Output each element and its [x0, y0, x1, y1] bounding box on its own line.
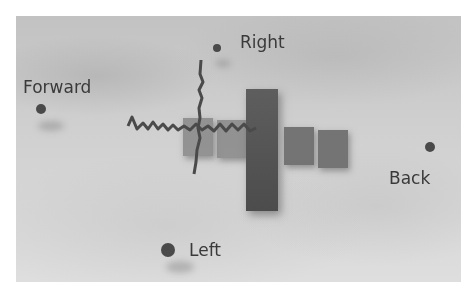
- trajectory-wires: [16, 16, 461, 282]
- scene-image: Forward Right Back Left: [16, 16, 461, 282]
